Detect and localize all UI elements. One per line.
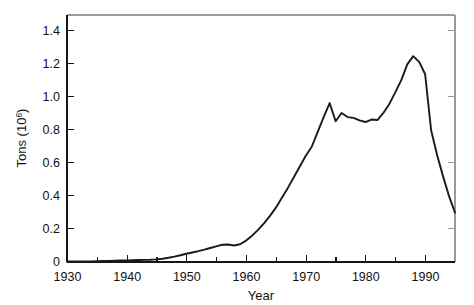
y-tick-labels: 0 0.2 0.4 0.6 0.8 1.0 1.2 1.4 <box>43 24 60 269</box>
x-tick-label: 1940 <box>113 270 141 284</box>
x-axis-title: Year <box>248 288 275 303</box>
x-tick-label: 1960 <box>233 270 261 284</box>
plot-background <box>67 15 455 262</box>
y-tick-label: 0.2 <box>43 222 60 236</box>
y-tick-label: 1.2 <box>43 57 60 71</box>
x-tick-labels: 1930 1940 1950 1960 1970 1980 1990 <box>54 270 440 284</box>
y-axis-title-base: Tons (10 <box>14 118 29 168</box>
x-tick-label: 1990 <box>412 270 440 284</box>
y-tick-label: 0.8 <box>43 123 60 137</box>
chart-figure: 0 0.2 0.4 0.6 0.8 1.0 1.2 1.4 1930 1940 … <box>0 0 474 305</box>
y-axis-title: Tons (106) <box>14 109 29 168</box>
y-tick-label: 0.4 <box>43 189 60 203</box>
y-tick-label: 1.4 <box>43 24 60 38</box>
x-tick-label: 1970 <box>292 270 320 284</box>
line-chart: 0 0.2 0.4 0.6 0.8 1.0 1.2 1.4 1930 1940 … <box>0 0 474 305</box>
y-tick-label: 1.0 <box>43 90 60 104</box>
x-tick-label: 1950 <box>173 270 201 284</box>
y-axis-title-close: ) <box>14 109 29 113</box>
x-tick-label: 1930 <box>54 270 82 284</box>
y-tick-label: 0.6 <box>43 156 60 170</box>
y-tick-label: 0 <box>53 255 60 269</box>
x-tick-label: 1980 <box>352 270 380 284</box>
